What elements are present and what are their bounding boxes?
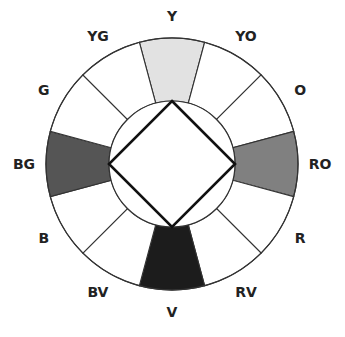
label-r: R [295, 230, 306, 246]
label-o: O [294, 82, 306, 98]
label-y: Y [166, 8, 178, 24]
label-g: G [38, 82, 50, 98]
label-rv: RV [235, 284, 257, 300]
color-wheel: YYOORORRVVBVBBGGYG [0, 0, 345, 337]
label-yo: YO [234, 28, 257, 44]
label-ro: RO [309, 156, 332, 172]
label-yg: YG [86, 28, 109, 44]
label-b: B [38, 230, 49, 246]
label-v: V [167, 304, 178, 320]
inner-circle [109, 101, 235, 227]
label-bv: BV [88, 284, 109, 300]
label-bg: BG [13, 156, 35, 172]
